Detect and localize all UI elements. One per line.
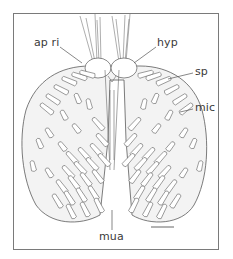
label-ap-ri: ap ri [34, 37, 59, 48]
apical-setae [80, 14, 130, 62]
apical-ring-right [111, 58, 137, 78]
label-hyp: hyp [157, 37, 178, 48]
label-mua: mua [99, 231, 124, 242]
label-sp: sp [195, 66, 208, 77]
leader-ap-ri [60, 47, 82, 63]
label-mic: mic [195, 102, 215, 113]
leader-hyp [134, 47, 156, 63]
